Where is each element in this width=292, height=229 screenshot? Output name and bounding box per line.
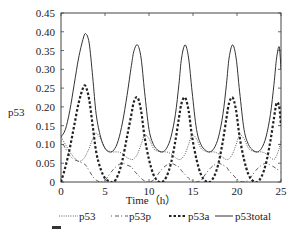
series-line-p53a <box>61 85 281 182</box>
legend-label: p53total <box>235 210 271 222</box>
y-tick-label: 0.15 <box>36 120 56 132</box>
x-tick-label: 5 <box>102 185 108 197</box>
line-chart: 00.050.100.150.200.250.300.350.400.45 05… <box>0 0 292 229</box>
y-tick-label: 0.05 <box>36 157 56 169</box>
cropped-caption-mark <box>52 226 61 229</box>
y-tick-label: 0.25 <box>36 82 56 94</box>
y-tick-label: 0.40 <box>36 26 56 38</box>
x-tick-label: 15 <box>188 185 200 197</box>
x-tick-label: 25 <box>276 185 288 197</box>
legend-item-p53total: p53total <box>215 210 271 222</box>
series-lines <box>61 34 281 183</box>
legend-label: p53a <box>188 210 210 222</box>
x-tick-label: 20 <box>232 185 244 197</box>
y-tick-label: 0.30 <box>36 63 56 75</box>
legend-label: p53p <box>129 210 152 222</box>
y-tick-label: 0.45 <box>36 7 56 19</box>
legend-label: p53 <box>79 210 96 222</box>
legend-item-p53: p53 <box>59 210 96 222</box>
legend-item-p53a: p53a <box>169 210 210 222</box>
y-axis-label: p53 <box>8 106 25 118</box>
y-tick-label: 0.10 <box>36 138 56 150</box>
legend: p53 p53p p53a p53total <box>59 210 271 222</box>
y-tick-label: 0.20 <box>36 101 56 113</box>
x-axis-label: Time（h） <box>126 194 176 206</box>
y-tick-label: 0 <box>50 176 56 188</box>
x-tick-label: 0 <box>58 185 64 197</box>
legend-item-p53p: p53p <box>111 210 152 222</box>
y-tick-label: 0.35 <box>36 45 56 57</box>
x-axis-ticks: 0510152025 <box>58 13 287 197</box>
